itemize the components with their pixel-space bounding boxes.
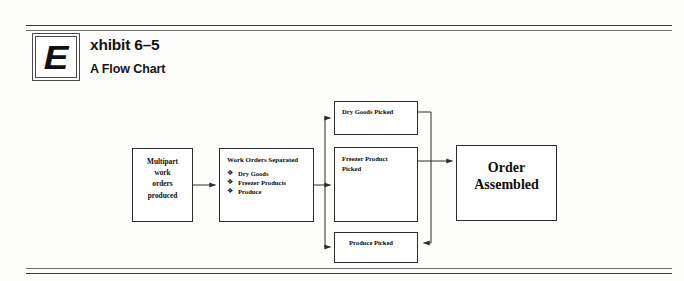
- node-line: Assembled: [457, 176, 556, 193]
- list-item: ❖ Produce: [227, 187, 313, 196]
- node-label: Produce Picked: [349, 239, 417, 246]
- node-line: Multipart: [133, 156, 192, 167]
- node-line: orders: [133, 178, 192, 189]
- node-freezer-product-picked[interactable]: Freezer Product Picked: [334, 147, 418, 222]
- node-order-assembled[interactable]: Order Assembled: [456, 145, 557, 221]
- node-line: Picked: [342, 164, 417, 174]
- diamond-bullet-icon: ❖: [227, 178, 233, 187]
- node-label: Dry Goods Picked: [342, 108, 417, 115]
- node-line: produced: [133, 190, 192, 201]
- list-item: ❖ Freezer Products: [227, 178, 313, 187]
- diamond-bullet-icon: ❖: [227, 187, 233, 196]
- diamond-bullet-icon: ❖: [227, 169, 233, 178]
- list-item-label: Freezer Products: [238, 179, 286, 186]
- node-heading: Work Orders Separated: [227, 155, 313, 164]
- bottom-rule: [26, 268, 672, 274]
- node-line: Freezer Product: [342, 154, 417, 164]
- edge-dry-goods-to-produce: [418, 112, 431, 243]
- node-multipart-work-orders[interactable]: Multipart work orders produced: [132, 148, 193, 222]
- node-dry-goods-picked[interactable]: Dry Goods Picked: [334, 101, 418, 135]
- node-produce-picked[interactable]: Produce Picked: [334, 232, 418, 263]
- node-line: Order: [457, 159, 556, 176]
- node-work-orders-separated[interactable]: Work Orders Separated ❖ Dry Goods ❖ Free…: [219, 148, 314, 222]
- exhibit-page: E xhibit 6–5 A Flow Chart: [0, 0, 684, 281]
- node-line: work: [133, 167, 192, 178]
- node-bullet-list: ❖ Dry Goods ❖ Freezer Products ❖ Produce: [227, 169, 313, 197]
- flow-chart: Multipart work orders produced Work Orde…: [0, 0, 684, 281]
- list-item-label: Produce: [238, 188, 261, 195]
- list-item-label: Dry Goods: [238, 170, 269, 177]
- list-item: ❖ Dry Goods: [227, 169, 313, 178]
